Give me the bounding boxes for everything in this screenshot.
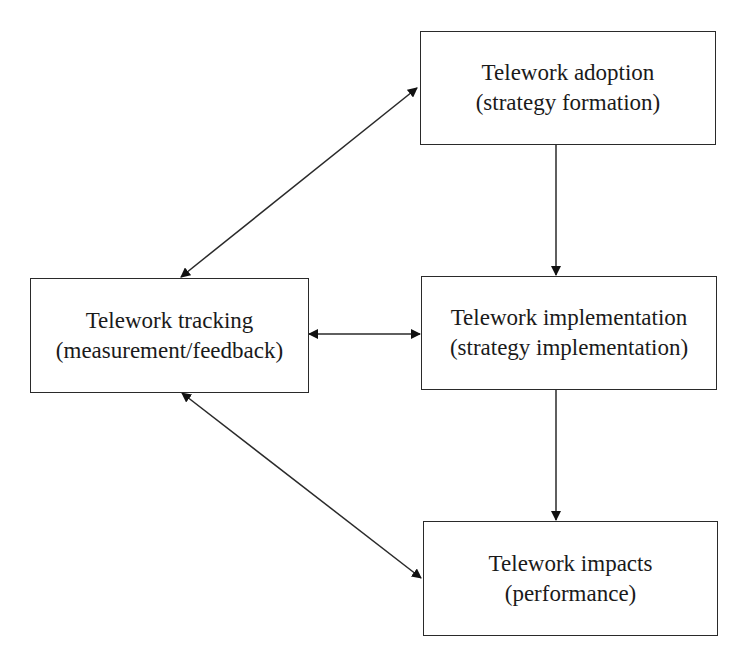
node-title: Telework adoption xyxy=(482,58,655,88)
node-telework-impacts: Telework impacts (performance) xyxy=(423,521,718,636)
node-telework-tracking: Telework tracking (measurement/feedback) xyxy=(30,278,309,393)
node-telework-implementation: Telework implementation (strategy implem… xyxy=(421,276,717,390)
node-subtitle: (performance) xyxy=(505,579,637,609)
node-title: Telework tracking xyxy=(86,306,254,336)
node-subtitle: (measurement/feedback) xyxy=(56,336,283,366)
arrow-tracking-adoption xyxy=(181,88,417,277)
arrow-tracking-impacts xyxy=(182,393,421,578)
node-subtitle: (strategy implementation) xyxy=(450,333,688,363)
node-title: Telework impacts xyxy=(489,549,653,579)
node-subtitle: (strategy formation) xyxy=(476,88,661,118)
node-telework-adoption: Telework adoption (strategy formation) xyxy=(420,31,716,145)
node-title: Telework implementation xyxy=(451,303,688,333)
